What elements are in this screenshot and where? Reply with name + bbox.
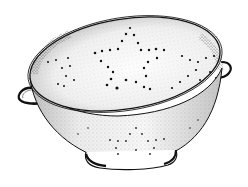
base-foot	[86, 150, 177, 170]
colander-illustration	[0, 0, 248, 187]
colander-drawing	[0, 0, 248, 187]
